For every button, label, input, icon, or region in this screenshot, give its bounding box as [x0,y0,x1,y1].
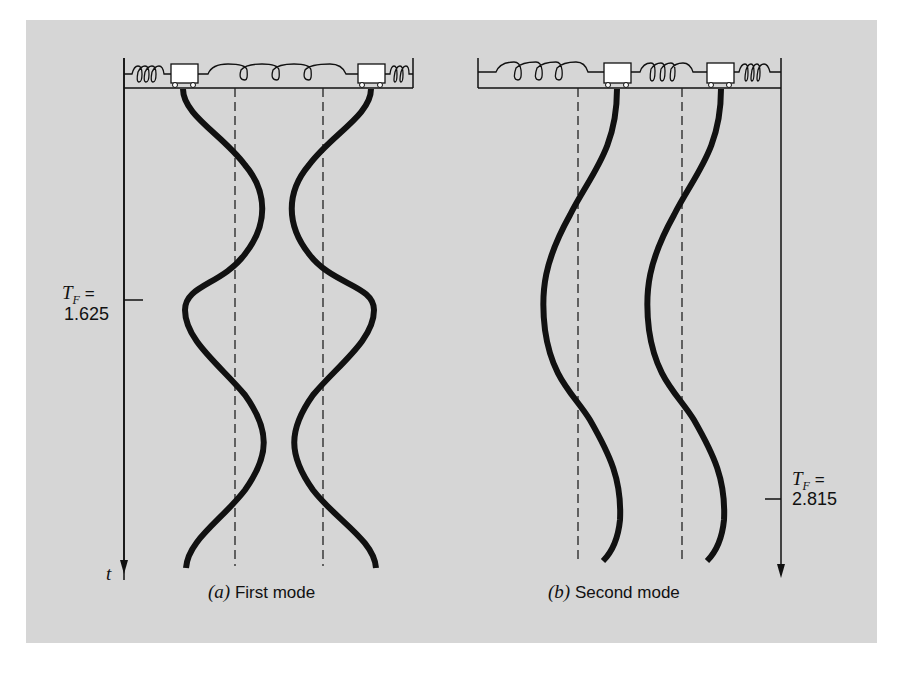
caption-letter-b: (b) [548,581,570,602]
mass-2-trajectory-b [647,89,724,561]
period-value-b: 2.815 [792,490,837,509]
mass-cart-2-a [358,64,385,88]
mass-1-trajectory-a [183,89,264,568]
period-label-b: TF = [792,469,825,491]
period-symbol: T [62,282,73,303]
arrow-down-icon [777,564,785,578]
time-axis-label: t [106,564,111,583]
spring-right-b [734,64,781,81]
period-symbol: T [792,468,803,489]
mass-2-trajectory-a [292,89,376,568]
period-label-a: TF = [62,283,95,305]
mass-cart-1-a [171,64,198,88]
equals-sign: = [85,284,95,303]
caption-a: (a) First mode [208,581,315,603]
mass-1-trajectory-b [543,89,620,561]
spring-left-a [124,66,171,82]
spring-left-b [478,62,604,80]
caption-text-a: First mode [235,583,315,602]
caption-text-b: Second mode [575,583,680,602]
caption-b: (b) Second mode [548,581,680,603]
panel-b-second-mode [478,58,785,578]
equals-sign: = [815,470,825,489]
panel-a-first-mode [120,58,413,580]
mass-cart-2-b [707,63,734,88]
spring-right-a [385,66,413,82]
mode-shapes-diagram [0,0,910,673]
period-value-a: 1.625 [64,305,109,324]
mass-cart-1-b [604,63,631,88]
spring-middle-b [631,63,707,81]
caption-letter-a: (a) [208,581,230,602]
spring-middle-a [198,64,358,80]
